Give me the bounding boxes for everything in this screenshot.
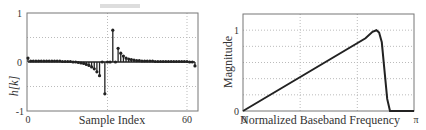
magnitude-plot: 0 1 0 π Normalized Baseband Frequency Ma…: [221, 14, 419, 127]
right-ylabel: Magnitude: [221, 36, 235, 88]
magnitude-curve: [243, 30, 414, 111]
xtick-pi: π: [413, 114, 418, 125]
smudge: [100, 4, 140, 8]
ytick-0: 0: [17, 57, 22, 68]
left-xlabel: Sample Index: [79, 113, 145, 127]
stems: [26, 29, 196, 96]
left-ylabel: h[k]: [7, 75, 21, 96]
ytick-0-right: 0: [234, 106, 239, 117]
ytick-minus1: -1: [16, 106, 24, 117]
ytick-1: 1: [17, 8, 22, 19]
xtick-0: 0: [26, 114, 31, 125]
xtick-60: 60: [182, 114, 192, 125]
ytick-1-right: 1: [234, 25, 239, 36]
right-xlabel: Normalized Baseband Frequency: [240, 113, 400, 127]
figure: 1 0 -1 0 60 Sample Index h[k] 0 1 0 π No…: [0, 0, 426, 130]
stem-plot: 1 0 -1 0 60 Sample Index h[k]: [7, 8, 198, 127]
